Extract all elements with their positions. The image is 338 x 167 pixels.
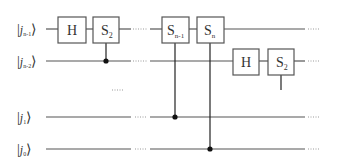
qubit-label-j1: |j1⟩ (17, 110, 31, 125)
qubit-label-jn1: |jn-1⟩ (17, 22, 36, 37)
ket-label: |j0⟩ (17, 142, 31, 157)
ket-label: |jn-2⟩ (17, 54, 36, 69)
wires (46, 29, 320, 149)
ket-label: |j1⟩ (17, 110, 31, 125)
gate-label: H (67, 23, 77, 38)
gate-h2: H (233, 49, 259, 75)
gate-s2a: S2 (93, 17, 119, 43)
quantum-circuit-diagram: H S2 Sn-1 Sn H S2 |jn-1⟩ |jn-2⟩ |j1⟩ |j0… (0, 0, 338, 167)
qubit-label-jn2: |jn-2⟩ (17, 54, 36, 69)
ket-label: |jn-1⟩ (17, 22, 36, 37)
control-dot (172, 114, 177, 119)
gate-sn1: Sn-1 (162, 17, 189, 43)
gate-label: H (241, 55, 251, 70)
control-dot (103, 58, 108, 63)
control-dot (207, 146, 212, 151)
qubit-label-j0: |j0⟩ (17, 142, 31, 157)
gate-sn: Sn (197, 17, 224, 43)
gate-s2b: S2 (268, 49, 294, 75)
gate-h1: H (58, 17, 86, 43)
